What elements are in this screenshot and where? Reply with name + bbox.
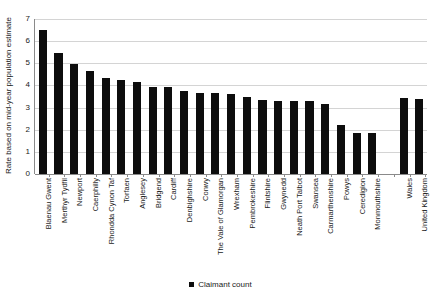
x-axis-category-labels: Blaenau GwentMerthyr TydfilNewportCaerph…: [34, 178, 426, 270]
bar-slot: [333, 19, 349, 174]
bar-slot: [255, 19, 271, 174]
x-axis-label-slot: Wales: [395, 178, 411, 270]
bar: [149, 87, 157, 174]
bar-slot: [176, 19, 192, 174]
legend-square-marker: [189, 282, 194, 287]
x-axis-label-slot: Pembrokeshire: [238, 178, 254, 270]
y-axis-tick-label: 2: [17, 126, 30, 134]
bar-slot: [82, 19, 98, 174]
x-axis-label-slot: Rhondda Cynon Taf: [97, 178, 113, 270]
bar-slot: [286, 19, 302, 174]
bar-slot: [317, 19, 333, 174]
bar-slot: [239, 19, 255, 174]
x-axis-label-slot: Caerphilly: [81, 178, 97, 270]
bar: [196, 93, 204, 174]
x-axis-label-slot: Wrexham: [222, 178, 238, 270]
x-axis-label-slot: Swansea: [301, 178, 317, 270]
bar-slot: [364, 19, 380, 174]
x-axis-label-slot: Newport: [65, 178, 81, 270]
bar: [54, 53, 62, 174]
bar: [243, 97, 251, 175]
bar: [133, 82, 141, 174]
x-axis-label-slot: Cardiff: [160, 178, 176, 270]
y-axis-tick-label: 3: [17, 104, 30, 112]
bar: [258, 100, 266, 174]
x-axis-label-slot: Bridgend: [144, 178, 160, 270]
bar-slot: [161, 19, 177, 174]
y-axis-tick-label: 5: [17, 59, 30, 67]
x-axis-label-slot: Neath Port Talbot: [285, 178, 301, 270]
x-axis-label-slot: United Kingdom: [411, 178, 427, 270]
bar: [86, 71, 94, 174]
x-axis-label-slot: Monmouthshire: [363, 178, 379, 270]
bar-slot: [66, 19, 82, 174]
bar-slot: [192, 19, 208, 174]
bar-slot: [51, 19, 67, 174]
y-axis-tick-label: 1: [17, 148, 30, 156]
legend-label: Claimant count: [198, 280, 251, 289]
bar: [211, 93, 219, 174]
bar: [117, 80, 125, 174]
plot-area: [34, 19, 427, 174]
bar-slot: [270, 19, 286, 174]
y-axis-tick-labels: 01234567: [17, 14, 32, 174]
x-axis-label-slot: Denbighshire: [175, 178, 191, 270]
bar: [290, 101, 298, 174]
bar-slot: [223, 19, 239, 174]
bar-slot: [380, 19, 396, 174]
y-axis-tick-label: 4: [17, 81, 30, 89]
bar-slot: [396, 19, 412, 174]
x-axis-label-slot: Gwynedd: [269, 178, 285, 270]
bar: [400, 98, 408, 174]
bar-slot: [98, 19, 114, 174]
bar-slot: [113, 19, 129, 174]
x-axis-category-label: United Kingdom: [421, 178, 429, 231]
bar: [274, 101, 282, 174]
x-axis-label-slot: Anglesey: [128, 178, 144, 270]
bar-slot: [412, 19, 428, 174]
x-axis-label-slot: The Vale of Glamorgan: [207, 178, 223, 270]
bar: [321, 104, 329, 174]
bar-slot: [145, 19, 161, 174]
bar: [164, 87, 172, 174]
bar: [180, 91, 188, 174]
bar: [337, 125, 345, 174]
bar: [39, 30, 47, 174]
bar-slot: [208, 19, 224, 174]
bars-layer: [35, 19, 427, 174]
x-axis-label-slot: Flintshire: [254, 178, 270, 270]
bar: [305, 101, 313, 174]
bar-slot: [349, 19, 365, 174]
bar-slot: [35, 19, 51, 174]
x-axis-label-slot: Torfaen: [112, 178, 128, 270]
x-axis-label-slot: Carmarthenshire: [316, 178, 332, 270]
bar: [368, 133, 376, 174]
x-axis-label-slot: Merthyr Tydfil: [50, 178, 66, 270]
x-axis-label-slot: Powys: [332, 178, 348, 270]
y-axis-title: Rate based on mid-year population estima…: [0, 0, 16, 190]
x-axis-label-slot: [379, 178, 395, 270]
bar: [415, 99, 423, 174]
x-axis-label-slot: Conwy: [191, 178, 207, 270]
bar-slot: [129, 19, 145, 174]
x-axis-label-slot: Ceredigion: [348, 178, 364, 270]
bar-chart: Rate based on mid-year population estima…: [0, 0, 441, 302]
y-axis-tick-label: 0: [17, 170, 30, 178]
y-axis-tick-label: 7: [17, 15, 30, 23]
bar-slot: [302, 19, 318, 174]
bar: [227, 94, 235, 174]
chart-legend: Claimant count: [0, 276, 441, 292]
y-axis-tick-label: 6: [17, 37, 30, 45]
x-axis-label-slot: Blaenau Gwent: [34, 178, 50, 270]
bar: [353, 133, 361, 174]
y-axis-title-text: Rate based on mid-year population estima…: [4, 17, 13, 174]
bar: [70, 64, 78, 174]
bar: [102, 78, 110, 174]
